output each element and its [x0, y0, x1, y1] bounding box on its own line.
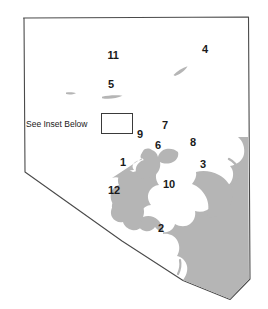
site-label-10: 10: [163, 179, 175, 190]
site-label-11: 11: [107, 50, 118, 61]
site-label-2: 2: [158, 223, 164, 234]
site-label-8: 8: [190, 137, 196, 148]
site-label-12: 12: [108, 185, 120, 196]
site-label-9: 9: [137, 129, 143, 140]
site-label-7: 7: [162, 120, 168, 131]
site-label-1: 1: [120, 157, 126, 168]
site-label-3: 3: [200, 159, 206, 170]
map-canvas: [0, 0, 268, 309]
site-label-4: 4: [202, 44, 208, 55]
site-label-6: 6: [155, 140, 161, 151]
site-label-5: 5: [108, 79, 114, 90]
map-figure: See Inset Below 114597681310122: [0, 0, 268, 309]
inset-note-label: See Inset Below: [26, 120, 87, 129]
inset-extent-rectangle: [101, 113, 133, 134]
